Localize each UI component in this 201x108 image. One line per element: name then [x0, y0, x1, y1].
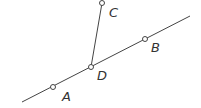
point-a [51, 85, 56, 90]
label-b: B [151, 40, 160, 55]
point-b [143, 37, 148, 42]
label-a: A [61, 89, 71, 104]
segment-DC [91, 3, 102, 67]
point-d [89, 65, 94, 70]
line-AB [22, 16, 190, 102]
label-d: D [97, 68, 107, 83]
label-c: C [109, 5, 119, 20]
diagram-canvas: ABCD [0, 0, 201, 108]
point-c [100, 1, 105, 6]
geometry-diagram: ABCD [0, 0, 201, 108]
